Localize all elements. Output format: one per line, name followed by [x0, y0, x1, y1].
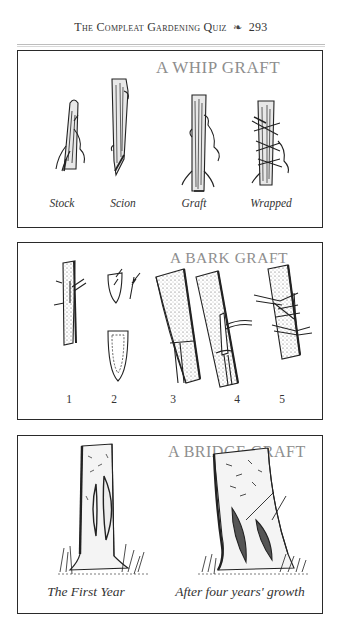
whip-graft-panel: A WHIP GRAFT [17, 50, 323, 228]
page-number: 293 [249, 20, 268, 34]
bark-graft-panel: A BARK GRAFT [17, 242, 323, 420]
caption-stock: Stock [50, 197, 75, 209]
running-title: The Compleat Gardening Quiz [74, 20, 226, 34]
step-number-3: 3 [170, 393, 176, 405]
caption-wrapped: Wrapped [250, 197, 292, 209]
wrapped-illustration [252, 101, 289, 185]
stock-illustration [56, 100, 85, 171]
first-year-illustration [58, 444, 148, 574]
graft-illustration [182, 95, 219, 191]
running-header: The Compleat Gardening Quiz ❧ 293 [0, 20, 342, 35]
caption-four-years: After four years' growth [175, 584, 305, 600]
four-years-illustration [198, 448, 310, 574]
bark-step-1 [54, 261, 86, 345]
bark-step-3 [156, 269, 200, 383]
bark-step-4 [196, 271, 252, 387]
leaf-ornament-icon: ❧ [233, 21, 242, 33]
step-number-1: 1 [66, 393, 72, 405]
step-number-4: 4 [234, 393, 240, 405]
bark-step-2 [108, 269, 140, 381]
caption-scion: Scion [110, 197, 136, 209]
header-rule [17, 44, 325, 47]
bark-step-5 [254, 265, 312, 359]
caption-first-year: The First Year [47, 584, 125, 600]
step-number-5: 5 [279, 393, 285, 405]
step-number-2: 2 [111, 393, 117, 405]
bridge-graft-panel: A BRIDGE GRAFT [17, 435, 323, 614]
scion-illustration [111, 79, 128, 175]
caption-graft: Graft [182, 197, 207, 209]
